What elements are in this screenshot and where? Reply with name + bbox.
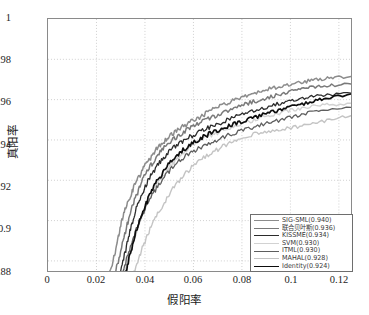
y-tick-text: 0.98 [0, 55, 16, 66]
x-tick-label: 0.1 [266, 275, 316, 286]
y-tick-text: 0.92 [0, 182, 16, 193]
y-tick-text: 0.96 [0, 97, 16, 108]
legend-color-swatch [254, 228, 279, 229]
legend-item-label: Identity(0.924) [282, 262, 330, 270]
x-axis-label: 假阳率 [0, 291, 369, 307]
y-tick-label: 1 [0, 13, 16, 24]
y-tick-text: 1 [6, 13, 16, 24]
x-tick-text: 0.06 [184, 274, 202, 285]
x-tick-label: 0.06 [168, 275, 218, 286]
y-tick-label: 0.88 [0, 267, 16, 278]
x-tick-text: 0.04 [136, 274, 154, 285]
x-tick-text: 0.12 [330, 274, 348, 285]
y-tick-label: 0.92 [0, 182, 16, 193]
x-tick-text: 0.1 [284, 274, 297, 285]
roc-chart-figure: 1 0.98 0.96 0.94 0.92 0.9 0.88 0 0.02 0.… [0, 0, 369, 315]
y-tick-text: 0.88 [0, 267, 16, 278]
y-tick-label: 0.9 [0, 224, 16, 235]
legend-color-swatch [254, 258, 279, 259]
x-tick-label: 0.02 [71, 275, 121, 286]
x-tick-text: 0.02 [87, 274, 105, 285]
y-axis-label: 真阳率 [4, 107, 20, 177]
legend-color-swatch [254, 220, 279, 221]
legend-color-swatch [254, 251, 279, 252]
x-tick-text: 0 [44, 274, 49, 285]
y-axis-label-wrap: 真阳率 [2, 110, 22, 180]
legend-item[interactable]: Identity(0.924) [254, 263, 350, 271]
x-tick-label: 0.12 [314, 275, 364, 286]
legend-color-swatch [254, 243, 279, 244]
x-tick-text: 0.08 [233, 274, 251, 285]
legend-color-swatch [254, 235, 279, 236]
y-tick-label: 0.96 [0, 97, 16, 108]
x-tick-label: 0 [22, 275, 72, 286]
x-tick-label: 0.04 [120, 275, 170, 286]
legend-color-swatch [254, 266, 279, 267]
y-tick-label: 0.98 [0, 55, 16, 66]
y-tick-text: 0.9 [0, 224, 16, 235]
legend-box: SIG-SML(0.940) 联合贝叶斯(0.936) KISSME(0.934… [250, 214, 353, 272]
x-tick-label: 0.08 [217, 275, 267, 286]
